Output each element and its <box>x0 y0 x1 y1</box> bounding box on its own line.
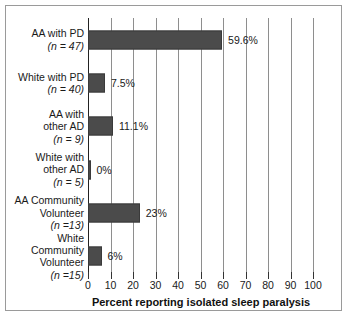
bar-row: 7.5% <box>88 61 313 104</box>
category-sample-size: (n =13) <box>50 219 84 231</box>
category-label: White with PD (n = 40) <box>6 61 84 104</box>
figure: AA with PD (n = 47) White with PD (n = 4… <box>0 0 348 317</box>
bar[interactable] <box>88 73 105 92</box>
x-axis-tick-label: 20 <box>127 280 139 291</box>
category-label-line: White with <box>36 151 84 163</box>
x-axis-tick <box>178 272 179 279</box>
bar-series: 59.6%7.5%11.1%0%23%6% <box>88 18 313 278</box>
category-sample-size: (n =15) <box>50 269 84 281</box>
category-label-line: Community <box>31 244 84 256</box>
bar-value-label: 6% <box>108 251 123 262</box>
x-axis-tick <box>313 272 314 279</box>
category-label-line: AA with PD <box>31 27 84 39</box>
category-label-line: other AD <box>43 120 84 132</box>
bar-value-label: 7.5% <box>111 78 135 89</box>
bar-row: 59.6% <box>88 18 313 61</box>
x-axis-tick-label: 50 <box>195 280 207 291</box>
category-label-line: Volunteer <box>40 256 84 268</box>
bar[interactable] <box>88 160 91 179</box>
x-axis-tick <box>133 272 134 279</box>
bar[interactable] <box>88 30 222 49</box>
x-axis-tick <box>111 272 112 279</box>
bar-row: 11.1% <box>88 105 313 148</box>
x-axis-tick-label: 30 <box>150 280 162 291</box>
category-label: AA Community Volunteer (n =13) <box>6 191 84 234</box>
category-sample-size: (n = 40) <box>48 83 85 95</box>
x-axis-tick <box>88 272 89 279</box>
x-axis-title: Percent reporting isolated sleep paralys… <box>88 296 314 308</box>
category-label-line: Volunteer <box>40 207 84 219</box>
x-axis-tick-label: 100 <box>304 280 322 291</box>
x-axis-tick <box>223 272 224 279</box>
bar-row: 23% <box>88 191 313 234</box>
bar-row: 0% <box>88 148 313 191</box>
bar[interactable] <box>88 247 102 266</box>
x-axis-tick <box>268 272 269 279</box>
category-label-line: White <box>57 232 84 244</box>
bar-value-label: 23% <box>146 208 167 219</box>
x-axis-tick <box>156 272 157 279</box>
category-sample-size: (n = 47) <box>48 40 85 52</box>
category-label: AA with PD (n = 47) <box>6 18 84 61</box>
category-label-line: other AD <box>43 163 84 175</box>
x-axis-tick <box>246 272 247 279</box>
gridline <box>313 18 314 278</box>
category-label: White with other AD (n = 5) <box>6 148 84 191</box>
x-axis-tick-label: 10 <box>105 280 117 291</box>
x-axis-tick-label: 90 <box>285 280 297 291</box>
bar-value-label: 0% <box>97 164 112 175</box>
category-sample-size: (n = 9) <box>53 133 84 145</box>
x-axis-tick-label: 70 <box>240 280 252 291</box>
category-label-line: AA Community <box>15 194 84 206</box>
plot-area: 59.6%7.5%11.1%0%23%6% <box>88 18 313 278</box>
category-label-line: White with PD <box>18 71 84 83</box>
bar[interactable] <box>88 117 113 136</box>
bar[interactable] <box>88 203 140 222</box>
category-label: AA with other AD (n = 9) <box>6 105 84 148</box>
x-axis-tick <box>201 272 202 279</box>
x-axis-tick-label: 80 <box>262 280 274 291</box>
category-label: White Community Volunteer (n =15) <box>6 235 84 278</box>
x-axis-tick-label: 0 <box>85 280 91 291</box>
category-sample-size: (n = 5) <box>53 176 84 188</box>
x-axis-tick <box>291 272 292 279</box>
category-label-line: AA with <box>49 108 84 120</box>
bar-value-label: 59.6% <box>228 34 258 45</box>
bar-value-label: 11.1% <box>119 121 148 132</box>
x-axis-tick-label: 40 <box>172 280 184 291</box>
x-axis-tick-label: 60 <box>217 280 229 291</box>
category-axis-labels: AA with PD (n = 47) White with PD (n = 4… <box>6 18 84 278</box>
